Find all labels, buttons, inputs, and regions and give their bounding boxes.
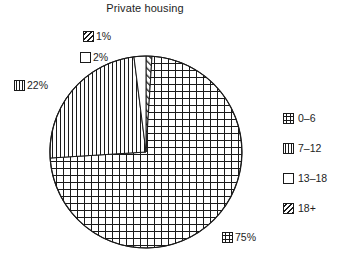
- pie-svg: [0, 0, 270, 266]
- legend-item-label: 7–12: [298, 143, 321, 154]
- pie-slice-7-12: [50, 57, 146, 158]
- pie-label-value: 22%: [27, 80, 48, 91]
- chart-legend: 0–6 7–12 13–18 18+: [283, 112, 348, 215]
- swatch-empty-icon: [80, 52, 91, 63]
- legend-item-7-12: 7–12: [283, 142, 348, 155]
- pie-plot-area: [0, 0, 270, 266]
- swatch-grid-icon: [222, 232, 233, 243]
- swatch-vertical-lines-icon: [14, 80, 25, 91]
- pie-label-13-18: 2%: [80, 52, 108, 63]
- pie-label-18plus: 1%: [83, 31, 111, 42]
- swatch-diagonal-hatch-icon: [83, 31, 94, 42]
- swatch-vertical-lines-icon: [283, 143, 294, 154]
- swatch-empty-icon: [283, 173, 294, 184]
- swatch-diagonal-hatch-icon: [283, 203, 294, 214]
- legend-item-label: 18+: [298, 203, 316, 214]
- pie-label-7-12: 22%: [14, 80, 48, 91]
- legend-item-label: 13–18: [298, 173, 327, 184]
- pie-label-value: 2%: [93, 52, 108, 63]
- swatch-grid-icon: [283, 113, 294, 124]
- pie-label-value: 1%: [96, 31, 111, 42]
- legend-item-18plus: 18+: [283, 202, 348, 215]
- legend-item-0-6: 0–6: [283, 112, 348, 125]
- legend-item-13-18: 13–18: [283, 172, 348, 185]
- legend-item-label: 0–6: [298, 113, 316, 124]
- pie-label-0-6: 75%: [222, 232, 256, 243]
- pie-chart-figure: Private housing: [0, 0, 348, 266]
- pie-label-value: 75%: [235, 232, 256, 243]
